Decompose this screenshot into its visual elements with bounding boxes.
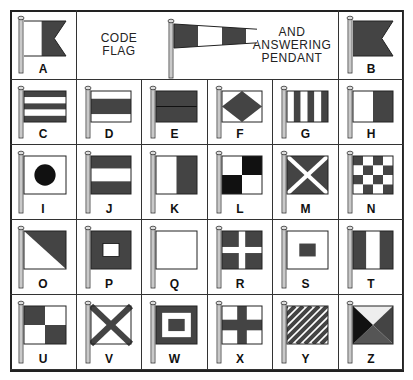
flag-letter-label: K [142, 202, 207, 216]
flag-cell-i: I [10, 145, 77, 220]
flag-cell-e: E [142, 80, 208, 145]
flag-letter-label: I [10, 202, 76, 216]
flag-cell-o: O [10, 220, 77, 295]
flag-cell-b: B [339, 10, 404, 80]
flag-letter-label: Q [142, 277, 207, 291]
flag-cell-p: P [77, 220, 142, 295]
flag-cell-w: W [142, 295, 208, 370]
flag-letter-label: G [273, 127, 338, 141]
flag-cell-y: Y [273, 295, 339, 370]
flag-cell-u: U [10, 295, 77, 370]
flag-cell-g: G [273, 80, 339, 145]
flag-cell-q: Q [142, 220, 208, 295]
flag-cell-h: H [339, 80, 404, 145]
flag-cell-r: R [208, 220, 273, 295]
answering-pendant-icon [77, 10, 257, 80]
flag-letter-label: Y [273, 352, 338, 366]
flag-cell-d: D [77, 80, 142, 145]
flag-cell-t: T [339, 220, 404, 295]
flag-letter-label: A [10, 62, 76, 76]
flag-cell-m: M [273, 145, 339, 220]
flag-letter-label: F [208, 127, 272, 141]
flag-letter-label: B [339, 62, 403, 76]
answering-pendant-title: ANDANSWERINGPENDANT [247, 26, 337, 65]
flag-cell-x: X [208, 295, 273, 370]
flag-letter-label: P [77, 277, 141, 291]
flag-cell-s: S [273, 220, 339, 295]
flag-cell-j: J [77, 145, 142, 220]
flag-cell-v: V [77, 295, 142, 370]
flag-letter-label: O [10, 277, 76, 291]
flag-letter-label: E [142, 127, 207, 141]
flag-letter-label: L [208, 202, 272, 216]
flag-letter-label: C [10, 127, 76, 141]
flag-cell-f: F [208, 80, 273, 145]
flag-cell-n: N [339, 145, 404, 220]
flagpole-icon [168, 19, 174, 78]
flag-letter-label: V [77, 352, 141, 366]
flag-letter-label: T [339, 277, 403, 291]
flag-letter-label: R [208, 277, 272, 291]
flag-letter-label: W [142, 352, 207, 366]
flag-letter-label: Z [339, 352, 403, 366]
flag-letter-label: H [339, 127, 403, 141]
flag-letter-label: J [77, 202, 141, 216]
flag-letter-label: N [339, 202, 403, 216]
flag-letter-label: M [273, 202, 338, 216]
flag-cell-l: L [208, 145, 273, 220]
flag-letter-label: U [10, 352, 76, 366]
flag-cell-k: K [142, 145, 208, 220]
flag-cell-z: Z [339, 295, 404, 370]
flag-letter-label: D [77, 127, 141, 141]
flag-cell-c: C [10, 80, 77, 145]
flag-letter-label: X [208, 352, 272, 366]
header-cell: CODEFLAGANDANSWERINGPENDANT [77, 10, 339, 80]
flag-cell-a: A [10, 10, 77, 80]
flag-letter-label: S [273, 277, 338, 291]
